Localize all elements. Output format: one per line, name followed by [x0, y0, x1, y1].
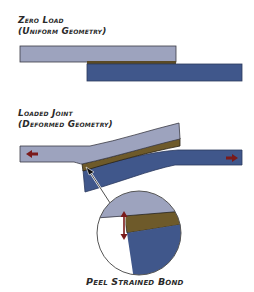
- lap-joint-diagram: [0, 0, 254, 292]
- adhesive-layer: [87, 61, 176, 64]
- lower-adherend: [87, 64, 242, 81]
- detail-caption: Peel Strained Bond: [86, 276, 184, 287]
- detail-magnifier: [95, 190, 185, 280]
- zero-load-joint: [20, 46, 242, 81]
- upper-adherend: [20, 46, 176, 62]
